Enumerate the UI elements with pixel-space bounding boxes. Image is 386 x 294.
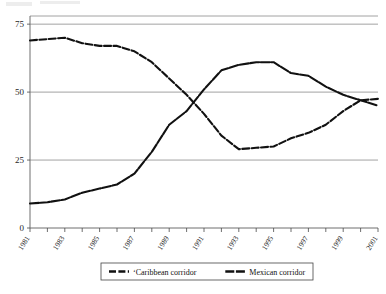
axes-group: [30, 16, 378, 228]
x-tick-label-1983: 1983: [51, 234, 67, 252]
x-axis-tick-labels: 1981198319851987198919911993199519971999…: [16, 234, 380, 252]
x-tick-label-1981: 1981: [16, 234, 32, 252]
x-tick-label-1989: 1989: [155, 234, 171, 252]
series-line-caribbean-corridor: [30, 38, 378, 149]
scan-artifact-top: [6, 2, 32, 6]
y-tick-label-0: 0: [20, 223, 25, 233]
x-tick-label-1985: 1985: [86, 234, 102, 252]
legend-label-mexican-corridor: Mexican corridor: [249, 268, 305, 277]
y-axis-tick-labels: 0255075: [15, 19, 30, 233]
x-tick-label-1997: 1997: [295, 234, 311, 252]
x-tick-label-1993: 1993: [225, 234, 241, 252]
y-tick-label-25: 25: [15, 155, 25, 165]
y-tick-label-50: 50: [15, 87, 25, 97]
x-tick-label-1991: 1991: [190, 234, 206, 252]
y-tick-label-75: 75: [15, 19, 25, 29]
x-tick-label-2001: 2001: [364, 234, 380, 252]
chart-figure: 0255075 19811983198519871989199119931995…: [0, 0, 386, 294]
scan-artifact-top-2: [40, 1, 80, 4]
line-chart-canvas: 0255075 19811983198519871989199119931995…: [0, 0, 386, 294]
data-series-group: [30, 38, 378, 204]
x-tick-label-1999: 1999: [329, 234, 345, 252]
x-tick-label-1987: 1987: [121, 234, 137, 252]
legend-label-caribbean-corridor: ‘Caribbean corridor: [133, 268, 197, 277]
chart-legend: ‘Caribbean corridorMexican corridor: [101, 263, 313, 280]
series-line-mexican-corridor: [30, 62, 378, 203]
x-tick-label-1995: 1995: [260, 234, 276, 252]
x-axis-ticks: [30, 228, 378, 232]
